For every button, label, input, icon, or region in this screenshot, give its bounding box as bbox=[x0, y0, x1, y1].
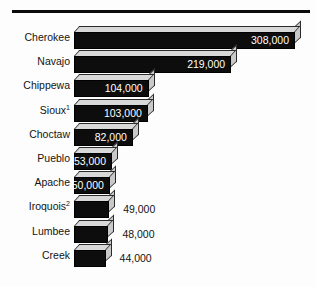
bar-row: Choctaw82,000 bbox=[0, 124, 316, 146]
bar: 50,000 bbox=[74, 177, 110, 194]
bar-side-face bbox=[110, 166, 116, 188]
bar-side-face bbox=[148, 93, 154, 115]
footnote-marker: 2 bbox=[66, 200, 70, 207]
bar-row: Lumbee48,000 bbox=[0, 221, 316, 243]
bar-row: Cherokee308,000 bbox=[0, 27, 316, 49]
bar-side-face bbox=[108, 214, 114, 236]
bar-side-face bbox=[106, 238, 112, 260]
bar-side-face bbox=[109, 190, 115, 212]
category-label: Lumbee bbox=[0, 225, 70, 238]
bar-row: Creek44,000 bbox=[0, 245, 316, 267]
bar-row: Pueblo53,000 bbox=[0, 148, 316, 170]
category-label: Apache bbox=[0, 176, 70, 189]
footnote-marker: 1 bbox=[66, 103, 70, 110]
bar bbox=[74, 226, 108, 243]
category-label: Creek bbox=[0, 249, 70, 262]
plot-area: Cherokee308,000Navajo219,000Chippewa104,… bbox=[0, 27, 316, 285]
bar-side-face bbox=[295, 21, 301, 43]
bar bbox=[74, 250, 106, 267]
bar-side-face bbox=[149, 69, 155, 91]
value-label: 219,000 bbox=[187, 56, 225, 73]
category-label: Sioux1 bbox=[0, 104, 70, 117]
bar: 104,000 bbox=[74, 80, 149, 97]
bar: 82,000 bbox=[74, 129, 133, 146]
category-label: Chippewa bbox=[0, 79, 70, 92]
bar: 103,000 bbox=[74, 105, 148, 122]
value-label: 49,000 bbox=[123, 201, 155, 218]
category-label: Choctaw bbox=[0, 128, 70, 141]
bar-front-face bbox=[74, 201, 109, 218]
value-label: 82,000 bbox=[95, 129, 127, 146]
header-rule bbox=[12, 10, 310, 13]
bar-front-face bbox=[74, 226, 108, 243]
value-label: 50,000 bbox=[72, 177, 104, 194]
bar-row: Navajo219,000 bbox=[0, 51, 316, 73]
bar bbox=[74, 201, 109, 218]
value-label: 104,000 bbox=[105, 80, 143, 97]
category-label: Pueblo bbox=[0, 152, 70, 165]
bar-row: Sioux1103,000 bbox=[0, 100, 316, 122]
value-label: 48,000 bbox=[122, 226, 154, 243]
bar-row: Chippewa104,000 bbox=[0, 75, 316, 97]
bar-chart-figure: Cherokee308,000Navajo219,000Chippewa104,… bbox=[0, 0, 316, 287]
bar-front-face bbox=[74, 250, 106, 267]
value-label: 103,000 bbox=[104, 105, 142, 122]
category-label: Iroquois2 bbox=[0, 200, 70, 213]
category-label: Navajo bbox=[0, 55, 70, 68]
category-label: Cherokee bbox=[0, 31, 70, 44]
value-label: 308,000 bbox=[251, 32, 289, 49]
bar-side-face bbox=[231, 45, 237, 67]
bar-row: Iroquois249,000 bbox=[0, 196, 316, 218]
value-label: 44,000 bbox=[120, 250, 152, 267]
bar-row: Apache50,000 bbox=[0, 172, 316, 194]
value-label: 53,000 bbox=[74, 153, 106, 170]
bar: 53,000 bbox=[74, 153, 112, 170]
bar: 308,000 bbox=[74, 32, 295, 49]
